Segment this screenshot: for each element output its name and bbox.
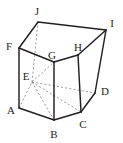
edge-E-J bbox=[32, 22, 38, 82]
solid-edge-group bbox=[19, 22, 106, 120]
edge-J-I bbox=[38, 22, 106, 30]
pentagonal-prism-figure: ABCDEFGHIJ bbox=[0, 0, 123, 143]
hidden-edge-group bbox=[19, 22, 95, 120]
edge-H-G bbox=[54, 55, 78, 62]
edge-E-G bbox=[32, 62, 54, 82]
vertex-label-f: F bbox=[6, 41, 12, 52]
vertex-label-h: H bbox=[74, 42, 82, 53]
edge-E-C bbox=[32, 82, 81, 112]
vertex-label-g: G bbox=[48, 50, 56, 61]
edge-A-E bbox=[19, 82, 32, 108]
edge-C-H bbox=[78, 55, 81, 112]
vertex-label-j: J bbox=[35, 6, 39, 17]
vertex-label-b: B bbox=[50, 129, 57, 140]
edge-C-D bbox=[81, 93, 95, 112]
edge-A-B bbox=[19, 108, 54, 120]
vertex-label-e: E bbox=[23, 71, 30, 82]
edge-F-J bbox=[19, 22, 38, 48]
vertex-label-c: C bbox=[79, 119, 86, 130]
edge-B-C bbox=[54, 112, 81, 120]
figure-canvas bbox=[0, 0, 123, 143]
edge-E-D bbox=[32, 82, 95, 93]
vertex-label-a: A bbox=[7, 105, 15, 116]
vertex-label-i: I bbox=[110, 18, 114, 29]
vertex-label-d: D bbox=[101, 86, 109, 97]
